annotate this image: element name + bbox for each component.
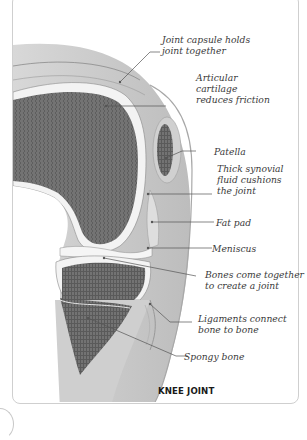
diagram-title: KNEE JOINT bbox=[158, 386, 214, 396]
label-articular-cartilage: Articular cartilage reduces friction bbox=[196, 72, 270, 105]
tibia-bone bbox=[62, 263, 145, 300]
label-ligaments: Ligaments connect bone to bone bbox=[198, 313, 287, 335]
label-meniscus: Meniscus bbox=[212, 243, 256, 254]
label-bones: Bones come together to create a joint bbox=[205, 269, 304, 291]
label-fat-pad: Fat pad bbox=[216, 217, 251, 228]
label-patella: Patella bbox=[214, 146, 246, 157]
label-spongy-bone: Spongy bone bbox=[184, 351, 244, 362]
label-synovial-fluid: Thick synovial fluid cushions the joint bbox=[217, 163, 284, 196]
label-joint-capsule: Joint capsule holds joint together bbox=[162, 34, 250, 56]
